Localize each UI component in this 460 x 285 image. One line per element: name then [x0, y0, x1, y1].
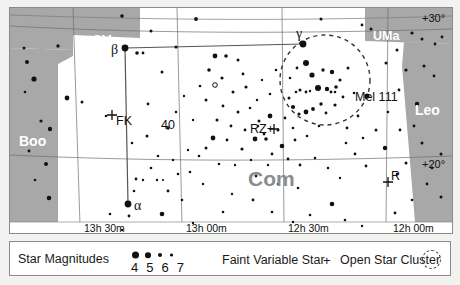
star — [31, 76, 36, 81]
legend-dot-mag5 — [145, 252, 151, 258]
star — [271, 153, 274, 156]
star — [199, 85, 202, 88]
star — [222, 105, 225, 108]
star — [292, 127, 295, 130]
star-alpha-com — [125, 201, 132, 208]
star — [303, 60, 309, 66]
star — [242, 73, 245, 76]
star — [65, 96, 70, 101]
star — [383, 146, 387, 150]
star — [135, 178, 138, 181]
legend-dot-mag6 — [158, 253, 162, 257]
star — [47, 196, 52, 201]
star — [183, 95, 185, 97]
star — [289, 77, 292, 80]
star — [346, 127, 349, 130]
star — [252, 199, 255, 202]
star — [230, 125, 233, 128]
star — [237, 59, 240, 62]
star — [421, 38, 424, 41]
star — [440, 196, 443, 199]
star — [187, 149, 189, 151]
star — [189, 171, 192, 174]
star-label-40: 40 — [161, 118, 175, 132]
star — [192, 119, 194, 121]
star — [347, 67, 350, 70]
star — [237, 111, 240, 114]
star-gamma-com — [300, 41, 307, 48]
star — [357, 115, 360, 118]
ra-tick-12h30m: 12h 30m — [288, 222, 329, 233]
star — [267, 164, 269, 166]
sky-map-svg: CVn Boo UMa Leo Com β γ α 40 FK RZ+ R Me… — [10, 8, 452, 233]
star — [396, 49, 399, 52]
star — [305, 91, 308, 94]
star — [339, 177, 341, 179]
star — [325, 87, 329, 91]
star — [375, 129, 378, 132]
star — [315, 85, 321, 91]
star — [142, 179, 144, 181]
star — [264, 137, 268, 141]
star — [181, 199, 184, 202]
star — [297, 187, 300, 190]
star — [48, 127, 52, 131]
legend-faint-variable-star-title: Faint Variable Star — [222, 253, 325, 267]
star — [256, 99, 258, 101]
star — [25, 60, 29, 64]
star — [288, 97, 291, 100]
star — [268, 114, 273, 119]
star — [287, 158, 290, 161]
star — [146, 135, 149, 138]
star — [327, 167, 330, 170]
star — [218, 163, 221, 166]
star — [319, 102, 322, 105]
star — [365, 165, 368, 168]
star — [354, 153, 357, 156]
star — [309, 214, 312, 217]
star — [325, 112, 328, 115]
star — [309, 90, 311, 92]
constellation-label-boo: Boo — [19, 133, 46, 149]
star — [433, 75, 436, 78]
star — [311, 107, 315, 111]
star — [253, 137, 258, 142]
star-label-fk: FK — [116, 114, 133, 128]
star — [271, 211, 274, 214]
star — [202, 183, 204, 185]
star — [128, 215, 131, 218]
ra-tick-13h00m: 13h 00m — [186, 222, 227, 233]
star — [207, 68, 211, 72]
star — [249, 107, 252, 110]
star — [434, 43, 437, 46]
star — [250, 159, 252, 161]
star — [344, 219, 347, 222]
star-label-beta: β — [111, 42, 118, 57]
star — [309, 72, 314, 77]
star — [167, 190, 170, 193]
dec-tick-plus30: +30° — [422, 12, 445, 24]
star — [109, 213, 112, 216]
star — [220, 76, 223, 79]
ra-tick-13h30m: 13h 30m — [84, 222, 125, 233]
star — [426, 183, 429, 186]
star — [240, 147, 243, 150]
star — [404, 68, 407, 71]
star — [320, 18, 323, 21]
star — [194, 17, 198, 21]
ra-label-strip — [10, 222, 452, 233]
star — [261, 79, 263, 81]
star — [34, 179, 37, 182]
star — [294, 139, 297, 142]
star — [131, 142, 134, 145]
star — [394, 212, 397, 215]
star — [299, 89, 302, 92]
star — [330, 70, 334, 74]
star — [411, 199, 414, 202]
star — [213, 54, 218, 59]
star — [216, 119, 219, 122]
star — [28, 150, 31, 153]
star — [398, 89, 401, 92]
star — [413, 125, 416, 128]
star — [24, 91, 27, 94]
